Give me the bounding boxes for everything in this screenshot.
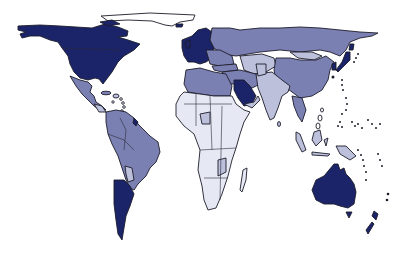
region-iceland[interactable] <box>176 24 183 27</box>
region-west-africa-highlight[interactable] <box>200 112 210 124</box>
region-philippines[interactable] <box>321 108 324 112</box>
region-sulawesi[interactable] <box>324 138 328 146</box>
region-tasmania[interactable] <box>346 212 352 218</box>
region-borneo[interactable] <box>312 130 322 146</box>
region-madagascar[interactable] <box>240 168 247 192</box>
region-hokkaido[interactable] <box>349 44 354 50</box>
region-north-america[interactable] <box>18 24 140 84</box>
region-argentina-chile[interactable] <box>114 180 134 240</box>
region-new-zealand-north[interactable] <box>372 211 378 220</box>
world-choropleth-map <box>0 0 412 255</box>
region-afghanistan[interactable] <box>256 64 266 76</box>
region-australia[interactable] <box>312 164 356 208</box>
region-java[interactable] <box>312 152 330 156</box>
region-new-guinea[interactable] <box>336 146 356 160</box>
region-new-zealand-south[interactable] <box>366 222 374 234</box>
region-sri-lanka[interactable] <box>278 122 281 127</box>
region-hispaniola[interactable] <box>113 94 119 98</box>
region-indonesia-sumatra[interactable] <box>296 132 306 152</box>
region-korea[interactable] <box>332 62 336 70</box>
region-sub-saharan-africa[interactable] <box>176 92 250 210</box>
region-cuba[interactable] <box>101 91 111 95</box>
region-southeast-asia[interactable] <box>292 96 306 122</box>
